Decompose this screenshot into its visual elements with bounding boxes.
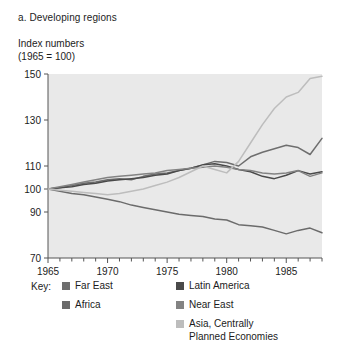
legend-item-far-east: Far East [62,280,113,293]
legend-swatch-far-east [62,282,70,290]
y-tick-label: 90 [30,207,42,218]
y-tick-label: 150 [24,69,41,80]
x-tick-label: 1980 [216,266,239,277]
line-chart: 709010011013015019651970197519801985 [0,0,351,290]
y-tick-label: 70 [30,253,42,264]
y-tick-label: 130 [24,115,41,126]
x-tick-label: 1985 [275,266,298,277]
legend-swatch-near-east [176,301,184,309]
chart-legend: Key: Far East Africa Latin America Near … [0,278,351,360]
legend-item-africa: Africa [62,299,101,312]
legend-swatch-asia-cpe [176,320,184,328]
legend-item-asia-cpe: Asia, Centrally Planned Economies [176,318,278,343]
x-tick-label: 1970 [96,266,119,277]
legend-label-far-east: Far East [75,280,113,293]
y-tick-label: 100 [24,184,41,195]
legend-label-asia-cpe: Asia, Centrally Planned Economies [189,318,278,343]
legend-item-near-east: Near East [176,299,233,312]
legend-swatch-africa [62,301,70,309]
legend-swatch-latin-america [176,282,184,290]
legend-key-label: Key: [31,281,51,292]
figure-developing-regions: a. Developing regions Index numbers (196… [0,0,351,360]
x-tick-label: 1975 [156,266,179,277]
legend-label-africa: Africa [75,299,101,312]
legend-label-near-east: Near East [189,299,233,312]
plot-area-wrapper: 709010011013015019651970197519801985 [0,0,351,290]
legend-item-latin-america: Latin America [176,280,250,293]
legend-label-latin-america: Latin America [189,280,250,293]
x-tick-label: 1965 [37,266,60,277]
y-tick-label: 110 [25,161,41,172]
